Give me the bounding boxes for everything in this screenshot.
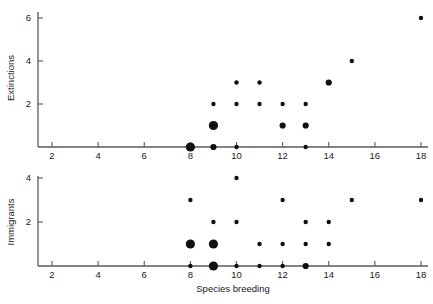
data-point — [186, 239, 195, 248]
x-tick-label: 8 — [188, 150, 193, 161]
data-point — [350, 198, 354, 202]
labels-layer: Species breeding — [196, 283, 269, 294]
data-point — [186, 142, 195, 151]
data-point — [327, 220, 331, 224]
x-tick-label: 4 — [95, 269, 100, 280]
immigrants-plot: 2424681012141618Immigrants — [5, 172, 428, 280]
x-tick-label: 6 — [142, 269, 147, 280]
x-tick-label: 16 — [370, 269, 381, 280]
data-point — [188, 264, 192, 268]
data-point — [209, 239, 218, 248]
plot-canvas: 24624681012141618Extinctions 24246810121… — [0, 0, 433, 304]
data-point — [327, 242, 331, 246]
data-point — [209, 261, 218, 270]
data-point — [419, 198, 423, 202]
data-point — [257, 264, 261, 268]
data-point — [211, 220, 215, 224]
data-point — [419, 16, 423, 20]
data-point — [303, 263, 309, 269]
data-point — [303, 220, 307, 224]
data-point — [234, 220, 238, 224]
x-tick-label: 18 — [416, 150, 427, 161]
x-tick-label: 2 — [49, 150, 54, 161]
y-tick-label: 2 — [26, 98, 31, 109]
x-axis-title: Species breeding — [196, 283, 269, 294]
y-tick-label: 4 — [26, 172, 31, 183]
data-point — [280, 102, 284, 106]
x-tick-label: 12 — [277, 269, 288, 280]
data-point — [280, 122, 286, 128]
x-tick-label: 10 — [231, 269, 242, 280]
data-point — [303, 102, 307, 106]
data-point — [280, 242, 284, 246]
data-point — [209, 121, 218, 130]
x-tick-label: 4 — [95, 150, 100, 161]
data-point — [234, 264, 238, 268]
data-point — [280, 264, 284, 268]
data-point — [257, 242, 261, 246]
data-point — [303, 122, 309, 128]
x-tick-label: 16 — [370, 150, 381, 161]
x-tick-label: 14 — [323, 269, 334, 280]
x-tick-label: 12 — [277, 150, 288, 161]
y-tick-label: 6 — [26, 12, 31, 23]
data-point — [234, 145, 238, 149]
x-tick-label: 10 — [231, 150, 242, 161]
x-tick-label: 18 — [416, 269, 427, 280]
scatter-figure: 24624681012141618Extinctions 24246810121… — [0, 0, 433, 304]
x-tick-label: 2 — [49, 269, 54, 280]
y-tick-label: 2 — [26, 216, 31, 227]
data-point — [303, 242, 307, 246]
data-point — [303, 145, 307, 149]
data-point — [280, 198, 284, 202]
y-axis-title-extinctions: Extinctions — [5, 55, 16, 101]
plot-svg: 24624681012141618Extinctions 24246810121… — [0, 0, 433, 304]
data-point — [326, 79, 332, 85]
data-point — [188, 198, 192, 202]
x-tick-label: 8 — [188, 269, 193, 280]
data-point — [234, 102, 238, 106]
data-point — [257, 80, 261, 84]
data-point — [211, 102, 215, 106]
data-point — [257, 102, 261, 106]
data-point — [350, 59, 354, 63]
x-tick-label: 6 — [142, 150, 147, 161]
extinctions-plot: 24624681012141618Extinctions — [5, 12, 428, 161]
y-tick-label: 4 — [26, 55, 31, 66]
data-point — [234, 176, 238, 180]
data-point — [234, 80, 238, 84]
y-axis-title-immigrants: Immigrants — [5, 198, 16, 245]
data-point — [210, 144, 216, 150]
x-tick-label: 14 — [323, 150, 334, 161]
